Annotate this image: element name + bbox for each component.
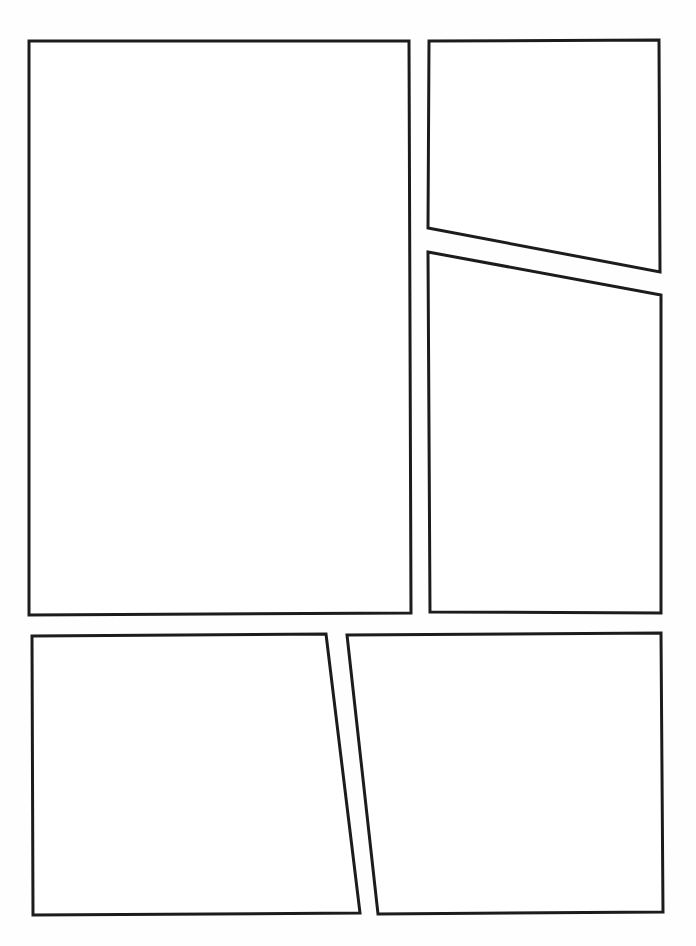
comic-panel-5[interactable] (347, 633, 663, 914)
comic-panel-3[interactable] (428, 252, 661, 613)
comic-panel-4[interactable] (32, 634, 360, 915)
comic-panel-layer (0, 0, 696, 946)
comic-page (0, 0, 696, 946)
comic-panel-2[interactable] (428, 40, 660, 272)
comic-panel-1[interactable] (29, 41, 411, 615)
